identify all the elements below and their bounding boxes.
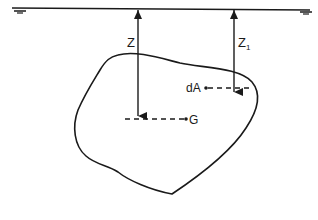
- label-G: G: [189, 113, 198, 127]
- diagram-canvas: Z Z1 dA G: [0, 0, 318, 220]
- arrowhead-up-z-icon: [134, 10, 142, 19]
- centroid-G-point: [184, 117, 188, 121]
- label-z1-subscript: 1: [246, 43, 251, 52]
- label-z: Z: [127, 35, 135, 50]
- element-dA-point: [204, 86, 208, 90]
- free-surface: [12, 8, 312, 14]
- arrowhead-up-z1-icon: [230, 10, 238, 19]
- plane-area-outline: [75, 53, 258, 194]
- diagram-svg: Z Z1 dA G: [0, 0, 318, 220]
- label-z1: Z1: [238, 35, 251, 52]
- water-level-symbol-right-icon: [300, 12, 312, 14]
- label-dA: dA: [186, 81, 201, 95]
- water-level-symbol-left-icon: [14, 11, 26, 13]
